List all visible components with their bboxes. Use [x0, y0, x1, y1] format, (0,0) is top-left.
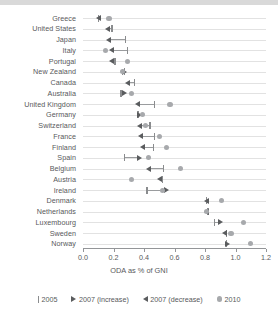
x-tick-label: 0.6 — [170, 253, 180, 262]
chart-row: Finland — [0, 142, 278, 153]
marker-2010 — [157, 134, 162, 139]
y-axis-label-denmark: Denmark — [0, 195, 76, 206]
x-tick — [266, 249, 267, 252]
marker-2005 — [125, 36, 126, 43]
y-axis-label-new-zealand: New Zealand — [0, 66, 76, 77]
marker-2005 — [149, 122, 150, 129]
x-tick-label: 1.2 — [261, 253, 271, 262]
gridline — [83, 169, 266, 170]
chart-row: Switzerland — [0, 120, 278, 131]
marker-2010 — [228, 231, 233, 236]
marker-2007-decrease — [146, 166, 151, 172]
gridline — [83, 136, 266, 137]
change-connector — [138, 104, 155, 105]
y-axis-label-luxembourg: Luxembourg — [0, 217, 76, 228]
gridline — [83, 179, 266, 180]
marker-2007-decrease — [96, 15, 101, 21]
chart-row: Denmark — [0, 195, 278, 206]
marker-2007-increase — [122, 90, 127, 96]
x-axis-label: ODA as % of GNI — [0, 266, 278, 275]
top-rule — [0, 0, 278, 5]
y-axis-label-united-kingdom: United Kingdom — [0, 99, 76, 110]
chart-row: United States — [0, 23, 278, 34]
gridline — [83, 212, 266, 213]
x-tick — [175, 249, 176, 252]
marker-2007-decrease — [106, 37, 111, 43]
y-axis-label-united-states: United States — [0, 23, 76, 34]
marker-2005 — [153, 144, 154, 151]
gridline — [83, 158, 266, 159]
chart-row: Belgium — [0, 163, 278, 174]
chart-row: Netherlands — [0, 206, 278, 217]
marker-2007-decrease — [138, 133, 143, 139]
marker-2007-decrease — [105, 26, 110, 32]
marker-2010 — [129, 91, 134, 96]
gridline — [83, 83, 266, 84]
marker-2007-decrease — [137, 123, 142, 129]
triangle-left-icon — [143, 296, 148, 302]
gridline — [83, 93, 266, 94]
marker-2007-increase — [225, 241, 230, 247]
marker-2005 — [146, 187, 147, 194]
marker-2010 — [248, 241, 253, 246]
y-axis-label-germany: Germany — [0, 109, 76, 120]
y-axis-label-austria: Austria — [0, 174, 76, 185]
marker-2010 — [219, 198, 224, 203]
chart-row: Austria — [0, 174, 278, 185]
chart-row: Australia — [0, 88, 278, 99]
y-axis-label-australia: Australia — [0, 88, 76, 99]
gridline — [83, 115, 266, 116]
marker-2007-decrease — [140, 144, 145, 150]
x-tick — [236, 249, 237, 252]
x-tick-label: 1.0 — [231, 253, 241, 262]
legend-label: 2007 (increase) — [79, 295, 129, 304]
chart-row: Portugal — [0, 56, 278, 67]
y-axis-label-greece: Greece — [0, 13, 76, 24]
chart-row: United Kingdom — [0, 99, 278, 110]
marker-2007-decrease — [109, 58, 114, 64]
chart-row: Sweden — [0, 228, 278, 239]
gridline — [83, 147, 266, 148]
marker-2010 — [178, 166, 183, 171]
gridline — [83, 126, 266, 127]
marker-2005 — [134, 79, 135, 86]
y-axis-label-switzerland: Switzerland — [0, 120, 76, 131]
marker-2010 — [103, 48, 108, 53]
chart-row: Ireland — [0, 185, 278, 196]
marker-2007-increase — [218, 219, 223, 225]
plot-area: GreeceUnited StatesJapanItalyPortugalNew… — [0, 8, 278, 248]
marker-2007-decrease — [222, 230, 227, 236]
legend-item: 2007 (increase) — [71, 295, 128, 304]
marker-2007-increase — [137, 155, 142, 161]
marker-2005 — [154, 101, 155, 108]
marker-2005 — [154, 133, 155, 140]
gridline — [83, 190, 266, 191]
marker-2010 — [160, 188, 165, 193]
tick-icon — [38, 296, 39, 303]
y-axis-label-finland: Finland — [0, 142, 76, 153]
marker-2007-decrease — [109, 47, 114, 53]
chart-row: Greece — [0, 13, 278, 24]
x-tick — [83, 249, 84, 252]
marker-2005 — [214, 219, 215, 226]
chart-figure: GreeceUnited StatesJapanItalyPortugalNew… — [0, 0, 278, 317]
marker-2010 — [146, 155, 151, 160]
x-tick — [205, 249, 206, 252]
marker-2005 — [111, 25, 112, 32]
x-tick-label: 0.0 — [78, 253, 88, 262]
chart-row: Luxembourg — [0, 217, 278, 228]
y-axis-label-italy: Italy — [0, 45, 76, 56]
marker-2007-decrease — [157, 176, 162, 182]
marker-2005 — [163, 165, 164, 172]
y-axis-label-france: France — [0, 131, 76, 142]
chart-row: Japan — [0, 34, 278, 45]
marker-2005 — [162, 176, 163, 183]
x-tick-label: 0.8 — [200, 253, 210, 262]
y-axis-label-japan: Japan — [0, 34, 76, 45]
chart-row: Spain — [0, 152, 278, 163]
gridline — [83, 244, 266, 245]
y-axis-label-norway: Norway — [0, 238, 76, 249]
circle-icon — [217, 296, 222, 301]
marker-2005 — [127, 47, 128, 54]
y-axis-label-spain: Spain — [0, 152, 76, 163]
